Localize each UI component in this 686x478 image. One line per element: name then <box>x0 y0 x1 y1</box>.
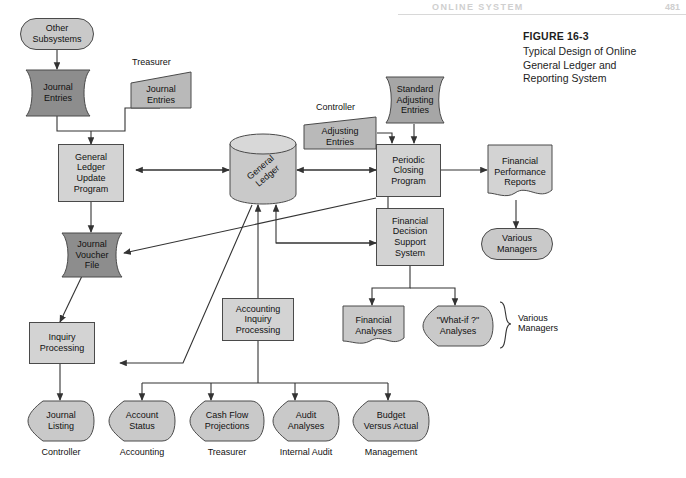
figure-title: Typical Design of Online General Ledger … <box>523 45 683 86</box>
output-symbol-account-status[interactable]: Account Status <box>108 400 176 442</box>
node-accounting-inquiry-processing[interactable]: Accounting Inquiry Processing <box>222 298 294 341</box>
node-general-ledger-update-program[interactable]: General Ledger Update Program <box>58 144 124 202</box>
node-other-subsystems[interactable]: Other Subsystems <box>20 18 94 50</box>
node-financial-analyses[interactable]: Financial Analyses <box>342 305 405 347</box>
node-inquiry-processing-label: Inquiry Processing <box>40 332 85 353</box>
node-journal-entries-subsystems[interactable]: Journal Entries <box>20 69 96 117</box>
recipient-cash-flow-projections: Treasurer <box>189 447 265 457</box>
figure-caption: FIGURE 16-3 Typical Design of Online Gen… <box>523 30 683 86</box>
output-symbol-budget-versus-actual[interactable]: Budget Versus Actual <box>352 400 430 442</box>
node-various-managers-reports[interactable]: Various Managers <box>481 228 553 260</box>
bracket-label-various-managers: Various Managers <box>518 313 558 333</box>
node-what-if-analyses[interactable]: "What-if ?" Analyses <box>422 305 494 347</box>
folio-number: 481 <box>665 2 680 12</box>
figure-title-line-3: Reporting System <box>523 72 683 86</box>
node-adjusting-entries-controller[interactable]: Adjusting Entries <box>303 116 377 150</box>
output-symbol-audit-analyses[interactable]: Audit Analyses <box>272 400 340 442</box>
source-label-treasurer: Treasurer <box>132 57 171 67</box>
node-general-ledger-database[interactable]: General Ledger <box>229 133 297 205</box>
node-financial-decision-support-system[interactable]: Financial Decision Support System <box>376 208 444 266</box>
recipient-journal-listing: Controller <box>27 447 95 457</box>
running-head: ONLINE SYSTEM <box>432 2 524 12</box>
node-periodic-closing-program-label: Periodic Closing Program <box>391 155 426 187</box>
node-journal-voucher-file[interactable]: Journal Voucher File <box>56 232 128 278</box>
node-various-managers-reports-label: Various Managers <box>497 233 537 254</box>
figure-title-line-1: Typical Design of Online <box>523 45 683 59</box>
figure-canvas: ONLINE SYSTEM 481 FIGURE 16-3 Typical De… <box>0 0 686 478</box>
node-other-subsystems-label: Other Subsystems <box>32 23 81 44</box>
node-accounting-inquiry-processing-label: Accounting Inquiry Processing <box>236 304 281 336</box>
output-symbol-journal-listing[interactable]: Journal Listing <box>27 400 95 442</box>
node-financial-decision-support-system-label: Financial Decision Support System <box>392 216 428 258</box>
header-rule <box>398 14 686 15</box>
node-periodic-closing-program[interactable]: Periodic Closing Program <box>376 144 441 197</box>
node-journal-entries-treasurer[interactable]: Journal Entries <box>130 71 192 109</box>
node-financial-performance-reports[interactable]: Financial Performance Reports <box>487 144 553 200</box>
recipient-audit-analyses: Internal Audit <box>266 447 346 457</box>
recipient-budget-versus-actual: Management <box>352 447 430 457</box>
node-standard-adjusting-entries[interactable]: Standard Adjusting Entries <box>380 76 450 124</box>
source-label-controller: Controller <box>316 102 355 112</box>
recipient-account-status: Accounting <box>108 447 176 457</box>
figure-title-line-2: General Ledger and <box>523 59 683 73</box>
node-general-ledger-update-program-label: General Ledger Update Program <box>74 152 109 194</box>
figure-number: FIGURE 16-3 <box>523 30 683 42</box>
node-inquiry-processing[interactable]: Inquiry Processing <box>29 322 95 364</box>
output-symbol-cash-flow-projections[interactable]: Cash Flow Projections <box>189 400 265 442</box>
